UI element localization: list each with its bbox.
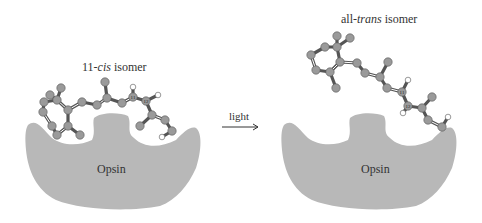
title-11-cis-isomer: 11-cis isomer [82, 60, 147, 75]
opsin-label-right: Opsin [361, 162, 390, 177]
title-all-trans-isomer: all-trans isomer [341, 12, 417, 27]
title-left-italic: cis [98, 60, 111, 74]
retinal-all-trans-bonds [311, 36, 448, 127]
light-arrow [222, 124, 258, 130]
title-left-suffix: isomer [111, 60, 147, 74]
c11-label-left: 11 [131, 95, 136, 100]
title-right-suffix: isomer [382, 12, 418, 26]
title-right-prefix: all- [341, 12, 357, 26]
c12-label-left: 12 [144, 99, 150, 104]
light-label: light [229, 110, 249, 122]
c11-label-right: 11 [400, 90, 405, 95]
title-left-prefix: 11- [82, 60, 98, 74]
opsin-label-left: Opsin [97, 162, 126, 177]
c12-label-right: 12 [406, 104, 412, 109]
title-right-italic: trans [357, 12, 382, 26]
